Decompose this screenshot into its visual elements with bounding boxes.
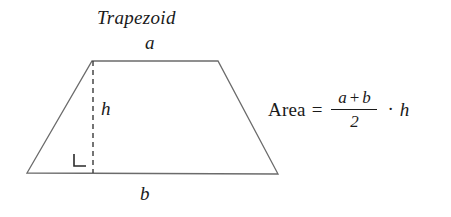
numerator-term-a: a xyxy=(338,88,347,107)
formula-area-word: Area xyxy=(268,100,306,119)
label-height-h: h xyxy=(101,99,111,118)
numerator-term-b: b xyxy=(362,88,371,107)
fraction-denominator: 2 xyxy=(347,110,362,132)
formula-multiply-dot: · xyxy=(387,99,393,118)
right-angle-marker-icon xyxy=(74,154,86,166)
area-formula: Area = a+b 2 · h xyxy=(268,88,409,131)
label-bottom-side-b: b xyxy=(140,184,150,203)
trapezoid-figure: Trapezoid a b h Area = a+b 2 · h xyxy=(0,0,451,217)
figure-title: Trapezoid xyxy=(97,8,176,27)
formula-equals-sign: = xyxy=(312,100,323,119)
numerator-plus-sign: + xyxy=(347,88,363,107)
trapezoid-outline xyxy=(27,61,278,174)
formula-height-factor: h xyxy=(400,100,410,119)
formula-fraction: a+b 2 xyxy=(331,88,377,131)
label-top-side-a: a xyxy=(145,33,155,52)
fraction-numerator: a+b xyxy=(335,88,374,109)
